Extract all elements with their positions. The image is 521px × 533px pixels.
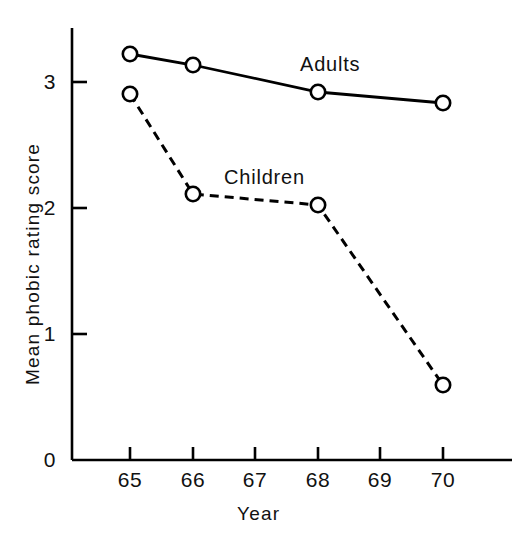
x-tick-label-69: 69	[358, 468, 402, 492]
y-axis-title: Mean phobic rating score	[22, 143, 44, 385]
children-line	[130, 94, 443, 385]
series-label-adults: Adults	[300, 53, 360, 76]
x-tick-label-70: 70	[421, 468, 465, 492]
series-label-children: Children	[224, 166, 305, 189]
children-marker	[123, 87, 137, 101]
phobic-rating-line-chart: 3 2 1 0 65 66 67 68 69 70 Mean phobic ra…	[0, 0, 521, 533]
adults-marker	[436, 96, 450, 110]
series-children	[123, 87, 450, 392]
y-tick-label-0: 0	[26, 448, 56, 472]
adults-marker	[311, 85, 325, 99]
x-tick-label-65: 65	[108, 468, 152, 492]
x-tick-label-66: 66	[171, 468, 215, 492]
x-tick-label-67: 67	[233, 468, 277, 492]
children-marker	[436, 378, 450, 392]
adults-marker	[186, 58, 200, 72]
x-axis-title: Year	[237, 503, 280, 525]
children-markers	[123, 87, 450, 392]
series-adults	[123, 47, 450, 110]
adults-marker	[123, 47, 137, 61]
y-tick-label-3: 3	[26, 70, 56, 94]
y-axis-ticks	[72, 82, 87, 334]
x-axis-ticks	[130, 447, 443, 460]
chart-plot-area	[0, 0, 521, 533]
children-marker	[311, 198, 325, 212]
x-tick-label-68: 68	[296, 468, 340, 492]
adults-line	[130, 54, 443, 103]
children-marker	[186, 187, 200, 201]
